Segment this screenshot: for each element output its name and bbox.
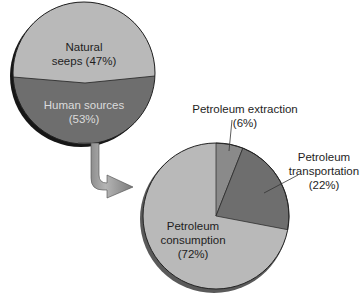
label-consumption-line3: (72%): [160, 247, 226, 261]
label-human-line1: Human sources: [36, 98, 132, 112]
label-petroleum-extraction: Petroleum extraction (6%): [184, 102, 306, 130]
top-pie: [0, 0, 170, 160]
label-petroleum-transportation: Petroleum transportation (22%): [288, 150, 360, 192]
bottom-pie: [140, 120, 298, 293]
arrow-icon: [78, 143, 133, 198]
label-natural-seeps: Natural seeps (47%): [48, 40, 120, 68]
label-consumption-line1: Petroleum: [160, 219, 226, 233]
label-human-line2: (53%): [36, 112, 132, 126]
label-natural-line2: seeps (47%): [48, 54, 120, 68]
label-consumption-line2: consumption: [160, 233, 226, 247]
label-transport-line1: Petroleum: [288, 150, 360, 164]
label-transport-line3: (22%): [288, 178, 360, 192]
label-transport-line2: transportation: [288, 164, 360, 178]
label-natural-line1: Natural: [48, 40, 120, 54]
label-extraction-line1: Petroleum extraction: [184, 102, 306, 116]
label-extraction-line2: (6%): [184, 116, 306, 130]
label-human-sources: Human sources (53%): [36, 98, 132, 126]
label-petroleum-consumption: Petroleum consumption (72%): [160, 219, 226, 261]
